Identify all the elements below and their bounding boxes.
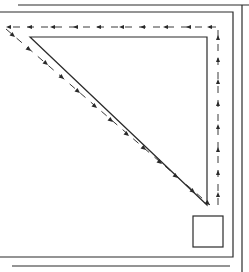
flow-diagram [0, 0, 249, 272]
small-square [193, 216, 223, 247]
flow-diagonal-dashed [6, 29, 210, 205]
inner-frame [0, 12, 233, 257]
